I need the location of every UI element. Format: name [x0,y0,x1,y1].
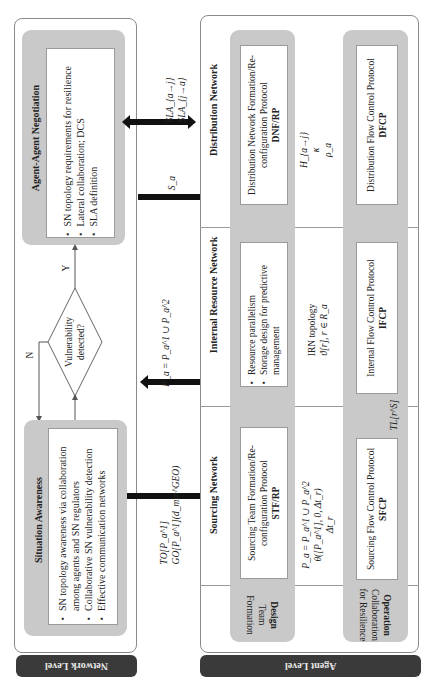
internal-resource-network-label: Internal Resource Network [207,237,220,353]
distribution-link-label: H_{a→j} κ ρ_a [298,132,334,168]
to-go-label: TO[P_a^1] GO[P_a^1](d_min^GEO) [158,466,182,565]
decision-text: Vulnerability detected? [63,317,87,367]
sfcp-text: Sourcing Flow Control Protocol SFCP [365,448,389,570]
situation-awareness-bullets: SN topology awareness via collaborationa… [56,430,108,620]
operation-collaboration-label: Operation Collaboration for Resilience [357,588,393,641]
tl-label: TL[r^S] [388,400,400,430]
bullet-item: Effective communication networks [95,430,108,620]
bullet-item: Resource parallelism [246,244,258,384]
sourcing-network-label: Sourcing Network [207,456,220,534]
dnf-rp-text: Distribution Network Formation/Re- confi… [246,55,282,195]
stf-rp-text: Sourcing Team Formation/Re- configuratio… [246,445,282,561]
decision-no-label: N [24,352,36,359]
dfcp-text: Distribution Flow Control Protocol DFCP [365,58,389,192]
bullet-item: Storage design for predictivemanagement [258,244,282,384]
situation-awareness-title: Situation Awareness [32,477,45,563]
distribution-network-label: Distribution Network [207,64,220,156]
bullet-item: Collaborative SN vulnerability detection [82,430,95,620]
agent-level-label: Agent Level [285,661,336,672]
p-a-label: P_a = P_a^1 ∪ P_a^2 [160,299,172,386]
ifcp-text: Internal Flow Control Protocol IFCP [365,259,389,376]
sourcing-link-label: P_a = P_a^1 ∪ P_a^2 θ([P_a^1], 0, Δt_r) … [300,481,336,568]
design-team-formation-label: Design Team Formation [244,595,280,635]
irn-link-label: IRN topology ϑ[r], r ∈ R_a [306,304,330,357]
agent-level-tab: Agent Level [200,655,421,677]
s-a-label: S_a [166,176,178,190]
sla-label: SLA_{a→j} SLA_{j→a} [164,77,188,122]
irn-design-text: Resource parallelism Storage design for … [246,244,282,384]
bullet-item: SN topology awareness via collaborationa… [56,430,82,620]
decision-yes-label: Y [60,265,72,272]
